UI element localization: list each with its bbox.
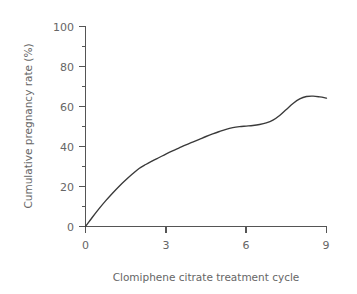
y-tick-label-0: 0 (67, 221, 74, 234)
y-tick-label-60: 60 (60, 101, 74, 114)
y-tick-label-40: 40 (60, 141, 74, 154)
x-axis-major-ticks (86, 227, 327, 234)
x-tick-label-6: 6 (243, 239, 250, 252)
chart-figure: 100 80 60 40 20 0 0 3 6 9 Cumulative pre… (0, 0, 357, 294)
y-tick-label-20: 20 (60, 181, 74, 194)
x-axis-title: Clomiphene citrate treatment cycle (113, 271, 300, 283)
pregnancy-rate-curve (86, 96, 327, 226)
y-tick-label-80: 80 (60, 61, 74, 74)
x-tick-label-0: 0 (82, 239, 89, 252)
x-tick-label-9: 9 (323, 239, 330, 252)
y-tick-label-100: 100 (53, 21, 74, 34)
x-tick-label-3: 3 (163, 239, 170, 252)
line-chart: 100 80 60 40 20 0 0 3 6 9 Cumulative pre… (0, 0, 357, 294)
y-axis-title: Cumulative pregnancy rate (%) (22, 43, 34, 208)
